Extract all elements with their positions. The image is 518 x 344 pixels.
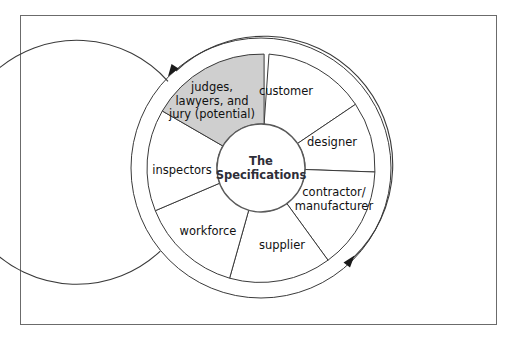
hub-label: The Specifications [216, 154, 307, 182]
figure-canvas: customer designer contractor/ manufactur… [0, 0, 518, 344]
clockwise-arrow-head-bottom-right [344, 256, 355, 268]
rotation-arrow-outer-arc [0, 40, 168, 284]
